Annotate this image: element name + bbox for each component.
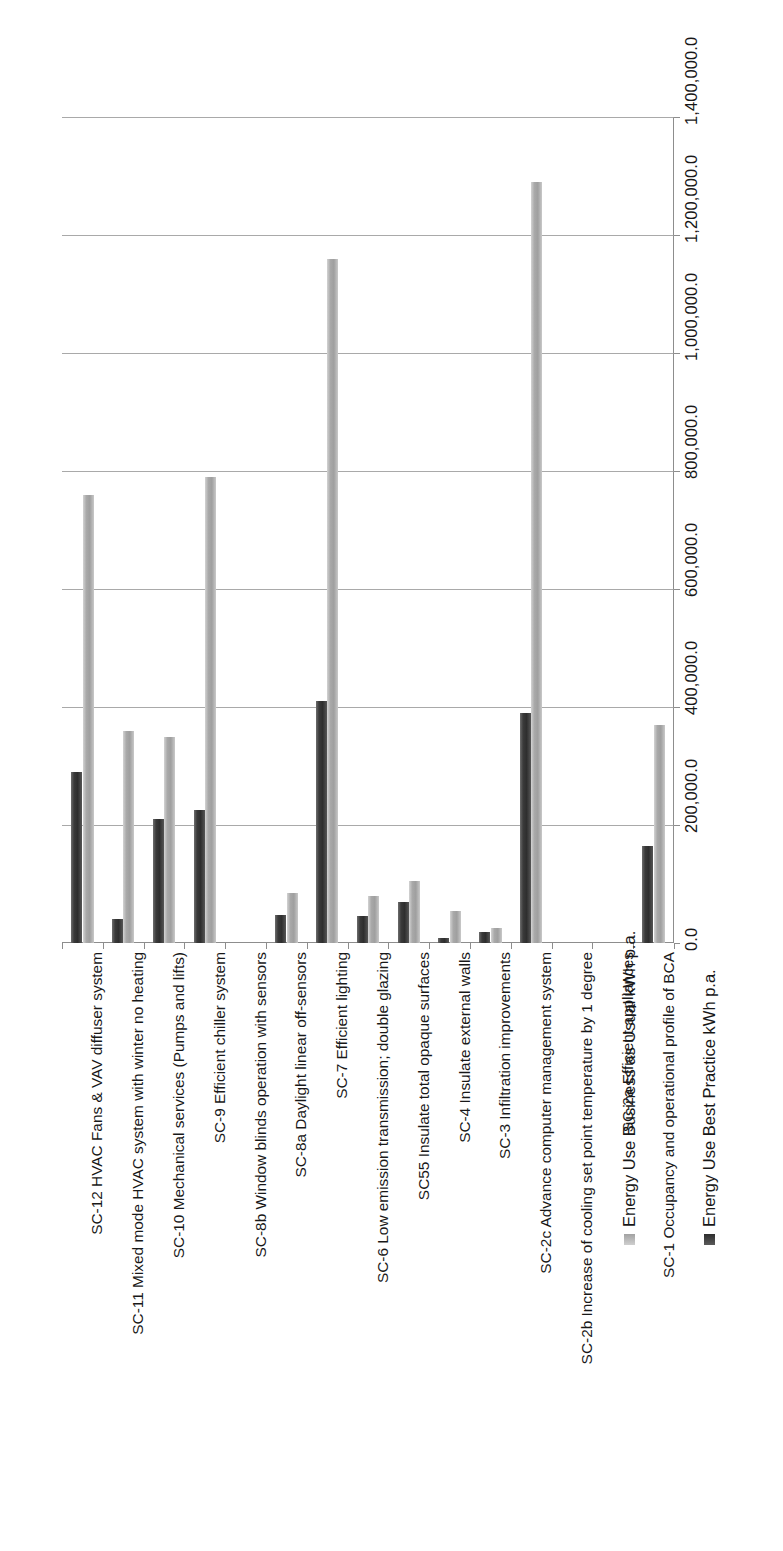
bar (275, 915, 286, 943)
category-axis-tick (674, 943, 675, 949)
bar (123, 731, 134, 943)
category-axis-tick (470, 943, 471, 949)
category-axis-tick (225, 943, 226, 949)
category-axis-label: SC-6 Low emission transmission; double g… (374, 952, 392, 1283)
bar (368, 896, 379, 943)
category-axis-label: SC-2c Advance computer management system (537, 952, 555, 1274)
bar (491, 928, 502, 943)
legend-item: Energy Use Best Practice kWh p.a. (700, 969, 719, 1245)
bar-group (62, 117, 103, 943)
bar-group (429, 117, 470, 943)
value-axis-tick (674, 353, 680, 354)
bar-group (144, 117, 185, 943)
legend-item: Energy Use Business as Usual kWh p.a. (620, 931, 639, 1245)
bar-group (633, 117, 674, 943)
bar-group (266, 117, 307, 943)
legend-label: Energy Use Best Practice kWh p.a. (700, 969, 719, 1227)
category-axis-label: SC-2b Increase of cooling set point temp… (578, 952, 596, 1364)
bar-group (184, 117, 225, 943)
category-axis-tick (592, 943, 593, 949)
value-axis-tick (674, 235, 680, 236)
bar (642, 846, 653, 943)
category-axis-label: SC-7 Efficient lighting (333, 952, 351, 1099)
bar-group (103, 117, 144, 943)
bar-group (511, 117, 552, 943)
category-axis-tick (184, 943, 185, 949)
bar-group (552, 117, 593, 943)
category-axis-tick (348, 943, 349, 949)
bar (450, 911, 461, 943)
value-axis-label: 200,000.0 (682, 759, 701, 833)
bar (479, 932, 490, 943)
category-axis-label: SC-10 Mechanical services (Pumps and lif… (170, 952, 188, 1258)
category-axis-label: SC-9 Efficient chiller system (211, 952, 229, 1143)
bar (164, 737, 175, 944)
category-axis-tick (552, 943, 553, 949)
plot-area (62, 117, 674, 943)
bar-group (592, 117, 633, 943)
legend-swatch-icon (624, 1234, 635, 1245)
bar (531, 182, 542, 943)
category-axis-label: SC-4 Insulate external walls (456, 952, 474, 1143)
category-axis-tick (103, 943, 104, 949)
bar-group (388, 117, 429, 943)
category-axis-tick (429, 943, 430, 949)
legend-label: Energy Use Business as Usual kWh p.a. (620, 931, 639, 1227)
category-axis-tick (511, 943, 512, 949)
bar-chart: 0.0200,000.0400,000.0600,000.0800,000.01… (0, 0, 783, 1551)
value-axis-label: 1,200,000.0 (682, 155, 701, 243)
category-axis-label: SC-8b Window blinds operation with senso… (252, 952, 270, 1257)
bar (357, 916, 368, 943)
value-axis-tick (674, 117, 680, 118)
bar (205, 477, 216, 943)
bar (316, 701, 327, 943)
category-axis-label: SC-12 HVAC Fans & VAV diffuser system (88, 952, 106, 1235)
category-axis-label: SC-8a Daylight linear off-sensors (292, 952, 310, 1178)
category-axis-tick (307, 943, 308, 949)
value-axis-label: 600,000.0 (682, 523, 701, 597)
value-axis-tick (674, 707, 680, 708)
category-axis-tick (388, 943, 389, 949)
category-axis-tick (266, 943, 267, 949)
bar (520, 713, 531, 943)
bar (287, 893, 298, 943)
value-axis-label: 400,000.0 (682, 641, 701, 715)
bar (654, 725, 665, 943)
bar-group (225, 117, 266, 943)
bar (83, 495, 94, 943)
category-axis-label: SC55 Insulate total opaque surfaces (415, 952, 433, 1200)
value-axis-label: 800,000.0 (682, 405, 701, 479)
bar (153, 819, 164, 943)
category-axis-label: SC-11 Mixed mode HVAC system with winter… (129, 952, 147, 1335)
bar (409, 881, 420, 943)
value-axis-label: 0.0 (682, 928, 701, 951)
bar (398, 902, 409, 943)
bar (71, 772, 82, 943)
value-axis-tick (674, 589, 680, 590)
category-axis-label: SC-1 Occupancy and operational profile o… (660, 952, 678, 1278)
bar (112, 919, 123, 943)
category-axis-tick (62, 943, 63, 949)
category-axis-tick (144, 943, 145, 949)
bar (194, 810, 205, 943)
value-axis-tick (674, 471, 680, 472)
value-axis-tick (674, 825, 680, 826)
bar-group (348, 117, 389, 943)
bar (327, 259, 338, 943)
legend-swatch-icon (704, 1234, 715, 1245)
bar (438, 938, 449, 943)
bar-group (307, 117, 348, 943)
value-axis-label: 1,400,000.0 (682, 37, 701, 125)
value-axis-label: 1,000,000.0 (682, 273, 701, 361)
bar-group (470, 117, 511, 943)
category-axis-label: SC-3 Infiltration improvements (496, 952, 514, 1159)
